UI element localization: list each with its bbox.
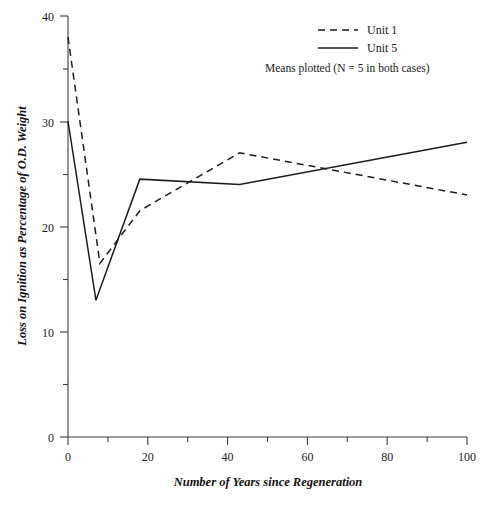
x-tick-label-100: 100 [458, 450, 476, 464]
y-tick-label-0: 0 [48, 431, 54, 445]
x-tick-label-0: 0 [65, 450, 71, 464]
x-tick-label-40: 40 [222, 450, 234, 464]
y-tick-label-10: 10 [42, 326, 54, 340]
line-chart: 40 30 20 10 0 0 20 40 60 80 100 Num [0, 0, 492, 505]
y-axis-title: Loss on Ignition as Percentage of O.D. W… [15, 106, 29, 347]
y-tick-label-20: 20 [42, 221, 54, 235]
x-tick-label-80: 80 [381, 450, 393, 464]
legend-label-unit-1: Unit 1 [367, 23, 397, 37]
chart-container: 40 30 20 10 0 0 20 40 60 80 100 Num [0, 0, 492, 505]
y-tick-label-40: 40 [42, 10, 54, 24]
legend-note: Means plotted (N = 5 in both cases) [265, 62, 430, 75]
legend-label-unit-5: Unit 5 [367, 41, 397, 55]
x-tick-label-60: 60 [301, 450, 313, 464]
x-axis-title: Number of Years since Regeneration [173, 475, 363, 489]
x-axis-minor-ticks [108, 437, 427, 442]
y-axis-major-ticks [60, 16, 68, 437]
y-tick-label-30: 30 [42, 116, 54, 130]
x-tick-label-20: 20 [142, 450, 154, 464]
chart-legend: Unit 1 Unit 5 Means plotted (N = 5 in bo… [265, 23, 430, 75]
series-line-unit-5 [68, 121, 467, 300]
